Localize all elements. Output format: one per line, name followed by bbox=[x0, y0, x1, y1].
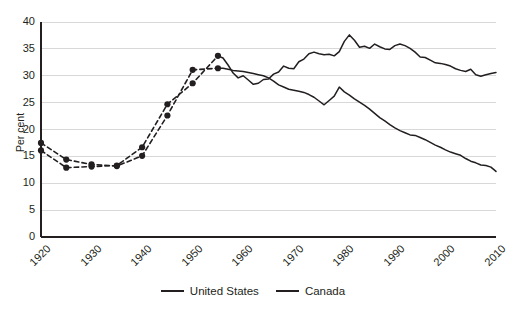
legend-item: Canada bbox=[276, 285, 345, 297]
data-point-marker bbox=[215, 65, 221, 71]
legend-label: Canada bbox=[305, 285, 345, 297]
legend-line-swatch bbox=[276, 290, 299, 292]
legend-item: United States bbox=[161, 285, 259, 297]
data-point-marker bbox=[63, 165, 69, 171]
data-point-marker bbox=[164, 112, 170, 118]
data-point-marker bbox=[164, 101, 170, 107]
data-point-marker bbox=[114, 162, 120, 168]
data-point-marker bbox=[139, 144, 145, 150]
legend-line-swatch bbox=[161, 290, 184, 292]
data-point-marker bbox=[63, 157, 69, 163]
data-point-marker bbox=[190, 80, 196, 86]
plot-canvas bbox=[0, 0, 506, 311]
data-point-marker bbox=[38, 147, 44, 153]
legend-label: United States bbox=[190, 285, 259, 297]
data-point-marker bbox=[215, 53, 221, 59]
series-line-1 bbox=[218, 35, 496, 84]
chart-container: Per cent 4035302520151050 19201930194019… bbox=[0, 0, 506, 311]
data-point-marker bbox=[139, 153, 145, 159]
chart-legend: United StatesCanada bbox=[0, 285, 506, 297]
data-point-marker bbox=[38, 140, 44, 146]
data-point-marker bbox=[88, 163, 94, 169]
data-point-marker bbox=[190, 67, 196, 73]
